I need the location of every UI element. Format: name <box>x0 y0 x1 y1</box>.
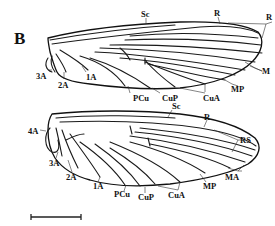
hindwing-crossvein-2 <box>130 126 132 134</box>
hindwing-label-mp: MP <box>203 181 216 191</box>
forewing-label-2a: 2A <box>58 80 69 90</box>
hindwing-label-r: R <box>204 112 211 122</box>
forewing-vein-cup <box>90 58 150 88</box>
forewing-vein-2a <box>56 54 66 72</box>
wing-venation-figure: B <box>0 0 275 226</box>
forewing-vein-m1 <box>95 52 245 70</box>
hindwing-label-3a: 3A <box>49 158 60 168</box>
forewing-label-r: R <box>214 8 221 18</box>
forewing-vein-r-branch2 <box>125 39 261 45</box>
hindwing-label-sc: Sc <box>172 101 181 111</box>
forewing-label-sc: Sc <box>141 9 150 19</box>
forewing-vein-r-branch1 <box>130 34 258 38</box>
hindwing-label-rs: RS <box>240 135 251 145</box>
forewing-label-mp: MP <box>231 84 244 94</box>
hindwing-anal-cross <box>66 134 84 140</box>
forewing-label-3a: 3A <box>36 71 47 81</box>
hindwing-vein-1a <box>70 134 100 177</box>
forewing-label-rs-truncated: R <box>266 12 273 22</box>
hindwing-vein-rs1 <box>140 128 255 150</box>
hindwing-label-ma: MA <box>225 172 240 182</box>
forewing-vein-cua1 <box>145 62 205 84</box>
hindwing-label-pcu: PCu <box>114 189 130 199</box>
hindwing: Sc R RS MA MP CuA CuP PCu 1A 2A 3A 4A <box>28 101 259 202</box>
hindwing-vein-mp <box>130 142 205 173</box>
forewing: Sc R R M MP CuA CuP PCu 1A 2A 3A <box>36 8 273 103</box>
forewing-label-m: M <box>262 66 270 76</box>
scale-bar <box>31 214 81 220</box>
hindwing-label-1a: 1A <box>93 181 104 191</box>
hindwing-label-4a: 4A <box>28 126 39 136</box>
hindwing-vein-cua2 <box>110 148 155 184</box>
forewing-label-cua: CuA <box>203 93 221 103</box>
panel-letter: B <box>14 29 25 48</box>
hindwing-label-2a: 2A <box>66 172 77 182</box>
hindwing-label-cua: CuA <box>168 190 186 200</box>
forewing-label-pcu: PCu <box>133 93 149 103</box>
forewing-vein-m2 <box>120 58 235 75</box>
hindwing-vein-cup <box>95 144 140 186</box>
forewing-label-1a: 1A <box>86 72 97 82</box>
hindwing-label-cup: CuP <box>138 192 154 202</box>
hindwing-vein-sc <box>56 116 175 118</box>
